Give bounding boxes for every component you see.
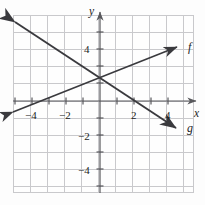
y-axis-label: y — [89, 6, 94, 17]
function-line-g — [15, 22, 176, 128]
x-axis-label: x — [194, 108, 199, 119]
x-tick-label--2: −2 — [59, 110, 71, 121]
curve-label-g: g — [187, 122, 193, 134]
y-tick-label--2: −2 — [78, 131, 90, 142]
axes-and-curves — [0, 0, 205, 205]
y-tick-label--4: −4 — [78, 165, 90, 176]
x-tick-label-4: 4 — [165, 110, 171, 121]
graph-figure: −4 −2 2 4 4 −2 −4 y x f g — [0, 0, 205, 205]
x-tick-label--4: −4 — [25, 110, 37, 121]
curve-label-f: f — [188, 41, 191, 53]
x-tick-label-2: 2 — [131, 110, 137, 121]
y-tick-label-4: 4 — [84, 44, 90, 55]
function-line-f — [13, 47, 177, 112]
